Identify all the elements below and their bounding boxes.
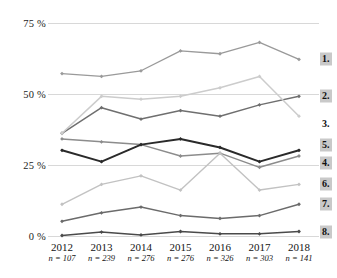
legend: 1.2.3.4.5.6.7.8. [0, 0, 337, 278]
legend-item-5[interactable]: 5. [320, 139, 332, 152]
legend-item-2[interactable]: 2. [320, 90, 332, 103]
legend-item-8[interactable]: 8. [320, 225, 332, 238]
legend-item-7[interactable]: 7. [320, 198, 332, 211]
line-chart: 0 %25 %50 %75 % 2012n = 1072013n = 23920… [0, 0, 337, 278]
legend-item-1[interactable]: 1. [320, 53, 332, 66]
legend-item-3[interactable]: 3. [320, 118, 332, 131]
legend-item-4[interactable]: 4. [320, 156, 332, 169]
legend-item-6[interactable]: 6. [320, 178, 332, 191]
